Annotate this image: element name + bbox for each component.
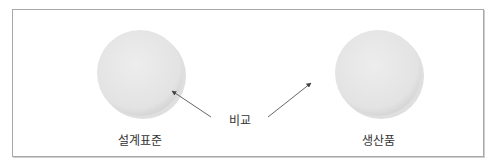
arrow-to-product [268, 83, 311, 117]
arrow-to-design-standard [172, 91, 211, 117]
product-circle [335, 30, 421, 116]
product-label: 생산품 [362, 131, 395, 148]
compare-label: 비교 [229, 111, 251, 128]
diagram-canvas [0, 0, 491, 167]
design-standard-label: 설계표준 [118, 131, 162, 148]
design-standard-circle [97, 30, 183, 116]
